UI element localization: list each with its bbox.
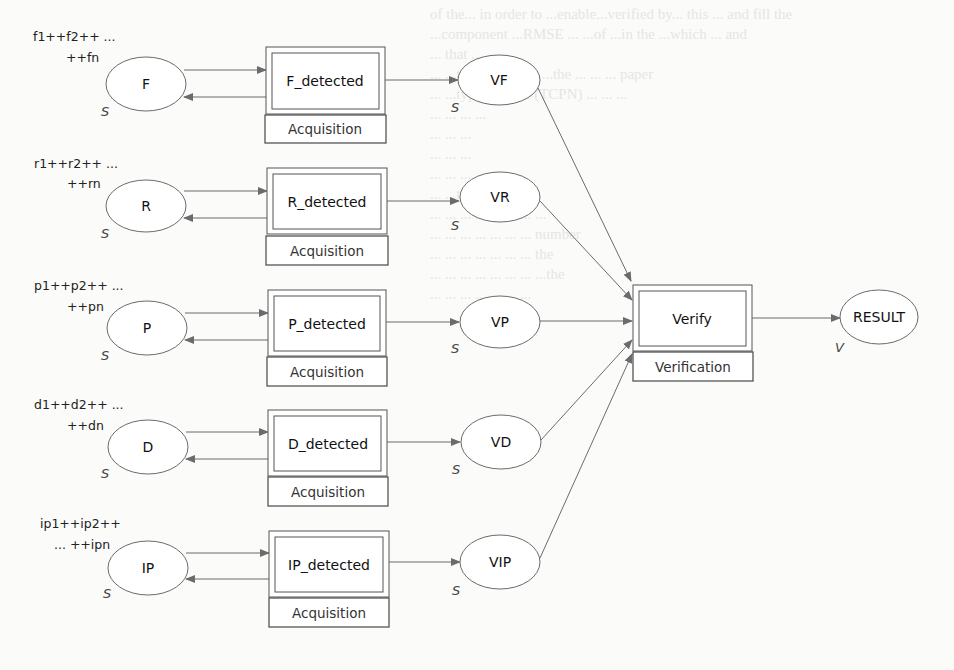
group-acquisition-p-label: Acquisition	[290, 364, 364, 380]
place-vd-type: S	[452, 462, 460, 477]
sequence-label-d-line1: d1++d2++ ...	[34, 397, 124, 412]
place-f-type: S	[101, 104, 109, 119]
sequence-label-p-line2: ++pn	[67, 299, 104, 314]
group-verification-label: Verification	[655, 359, 731, 375]
sequence-label-d-line2: ++dn	[67, 418, 104, 433]
row-f: f1++f2++ ... ++fn F S F_detected Acquisi…	[33, 29, 540, 143]
place-vd-label: VD	[491, 434, 511, 450]
sequence-label-r-line2: ++rn	[67, 176, 101, 191]
verify-transition-group: Verify Verification	[633, 285, 753, 381]
place-result-type: V	[835, 340, 845, 355]
place-f-label: F	[142, 76, 150, 92]
place-d-label: D	[143, 439, 154, 455]
row-d: d1++d2++ ... ++dn D S D_detected Acquisi…	[34, 397, 541, 506]
place-vr-label: VR	[490, 189, 510, 205]
arcs-to-verify	[538, 88, 632, 558]
place-p-label: P	[143, 320, 151, 336]
transition-ip-detected-label: IP_detected	[288, 557, 370, 573]
row-r: r1++r2++ ... ++rn R S R_detected Acquisi…	[34, 156, 540, 265]
sequence-label-f-line1: f1++f2++ ...	[33, 29, 116, 44]
transition-d-detected-label: D_detected	[288, 436, 368, 452]
place-ip-type: S	[103, 586, 111, 601]
row-ip: ip1++ip2++ ... ++ipn IP S IP_detected Ac…	[40, 516, 540, 627]
sequence-label-ip-line1: ip1++ip2++	[40, 516, 121, 531]
place-vp-label: VP	[491, 314, 509, 330]
group-acquisition-r-label: Acquisition	[290, 243, 364, 259]
place-vf-type: S	[451, 100, 459, 115]
arc-vip-to-verify	[540, 354, 632, 558]
arc-vr-to-verify	[540, 201, 632, 300]
arc-vf-to-verify	[538, 88, 631, 281]
place-ip-label: IP	[142, 560, 155, 576]
group-acquisition-f-label: Acquisition	[288, 121, 362, 137]
sequence-label-f-line2: ++fn	[66, 50, 99, 65]
place-vf-label: VF	[490, 72, 508, 88]
place-result-label: RESULT	[853, 309, 906, 325]
row-p: p1++p2++ ... ++pn P S P_detected Acquisi…	[34, 278, 540, 386]
place-d-type: S	[101, 466, 109, 481]
transition-f-detected-label: F_detected	[286, 73, 363, 89]
sequence-label-r-line1: r1++r2++ ...	[34, 156, 118, 171]
transition-p-detected-label: P_detected	[288, 316, 366, 332]
result-place-group: RESULT V	[752, 290, 918, 355]
place-vr-type: S	[451, 218, 459, 233]
arc-vd-to-verify	[541, 340, 632, 440]
place-vip-label: VIP	[489, 554, 511, 570]
sequence-label-ip-line2: ... ++ipn	[54, 537, 110, 552]
place-r-type: S	[101, 226, 109, 241]
place-vip-type: S	[452, 583, 460, 598]
transition-verify-label: Verify	[672, 311, 712, 327]
transition-r-detected-label: R_detected	[287, 194, 366, 210]
group-acquisition-d-label: Acquisition	[291, 484, 365, 500]
place-vp-type: S	[451, 341, 459, 356]
group-acquisition-ip-label: Acquisition	[292, 605, 366, 621]
place-p-type: S	[101, 348, 109, 363]
place-r-label: R	[141, 198, 151, 214]
petri-net-diagram: f1++f2++ ... ++fn F S F_detected Acquisi…	[0, 0, 954, 670]
sequence-label-p-line1: p1++p2++ ...	[34, 278, 124, 293]
